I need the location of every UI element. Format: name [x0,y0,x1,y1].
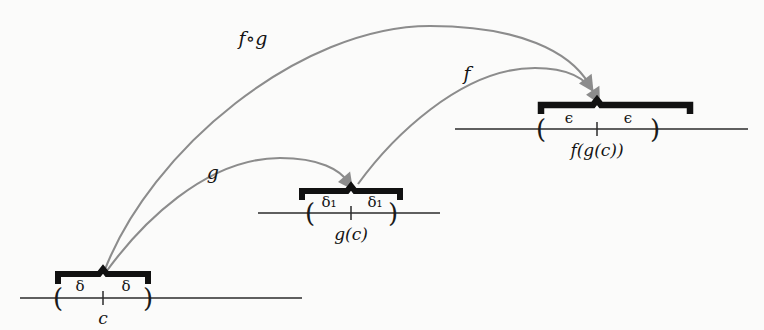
gc-left-measure-label: δ₁ [321,195,336,210]
fgc-right-measure-label: ϵ [624,111,632,126]
c-interval-bracket [58,269,148,284]
arc-label-f: f [463,64,470,83]
arc-label-f-compose-g: f∘g [238,29,267,48]
fgc-interval-left-paren: ( [536,116,546,142]
c-interval-right-paren: ) [143,285,153,311]
gc-interval-left-paren: ( [305,200,315,226]
c-right-measure-label: δ [121,279,130,294]
fgc-interval-right-paren: ) [650,116,660,142]
fgc-left-measure-label: ϵ [565,111,573,126]
gc-interval-bracket [302,186,400,200]
fgc-interval-bracket [541,100,690,114]
c-left-measure-label: δ [75,279,84,294]
c-interval-left-paren: ( [53,285,63,311]
arc-label-g: g [207,163,219,182]
fgc-center-label: f(g(c)) [570,142,623,159]
arc-f [358,68,596,184]
epsilon-delta-composition-diagram: f∘g g f ( ) δ δ c ( ) δ₁ δ₁ g(c) ( ) ϵ ϵ… [0,0,764,330]
c-center-label: c [98,310,108,327]
fgc-axis-group [455,100,748,136]
gc-interval-right-paren: ) [388,200,398,226]
gc-center-label: g(c) [334,226,368,243]
gc-axis-group [258,186,440,220]
gc-right-measure-label: δ₁ [367,195,382,210]
diagram-canvas [0,0,764,330]
